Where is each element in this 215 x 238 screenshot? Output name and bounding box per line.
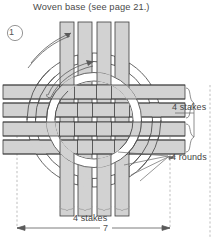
step-number-text: 1 (9, 27, 14, 37)
dimension-arrow-right (162, 226, 170, 231)
label-stakes-right: 4 stakes (172, 102, 206, 112)
woven-base-diagram (0, 0, 215, 238)
bottom-dimension (17, 226, 170, 231)
label-stakes-bottom: 4 stakes (73, 213, 107, 223)
label-dimension: 7 (103, 223, 108, 233)
brace-lower (186, 124, 194, 152)
dimension-arrow-left (17, 226, 25, 231)
label-rounds: 4 rounds (171, 152, 207, 162)
figure-root: Woven base (see page 21.) 4 stakes 4 rou… (0, 0, 215, 238)
figure-title: Woven base (see page 21.) (33, 2, 150, 12)
